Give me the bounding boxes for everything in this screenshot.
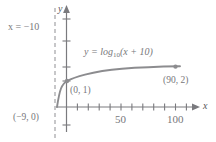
y-axis-label: y (58, 4, 62, 14)
point-label-y-intercept: (0, 1) (70, 86, 91, 96)
graph-figure: y x x = −10 y = log10(x + 10) (0, 1) (90… (0, 0, 216, 142)
point-label-x-intercept: (−9, 0) (13, 113, 39, 123)
equation-base: 10 (113, 51, 120, 59)
y-axis (63, 5, 70, 132)
point-marker-y-intercept (65, 79, 69, 83)
point-label-right: (90, 2) (163, 76, 188, 86)
point-marker-right (173, 64, 177, 68)
asymptote-label: x = −10 (8, 22, 39, 32)
x-axis-label: x (203, 101, 207, 111)
equation-tail: (x + 10) (120, 46, 153, 57)
equation-label: y = log10(x + 10) (84, 47, 153, 57)
x-tick-label-100: 100 (167, 114, 184, 125)
x-tick-label-50: 50 (115, 114, 126, 125)
equation-head: y = log (84, 46, 113, 57)
